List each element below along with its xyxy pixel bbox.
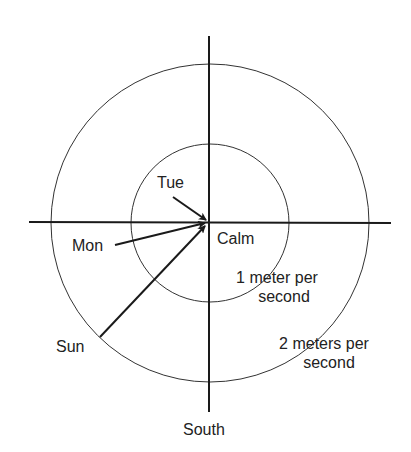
label-sun: Sun: [56, 337, 84, 356]
label-1ms-line1: 1 meter per: [222, 268, 332, 287]
label-2ms: 2 meters per second: [265, 334, 383, 372]
label-1ms-line2: second: [222, 287, 332, 306]
label-2ms-line2: second: [265, 353, 383, 372]
horizontal-axis: [29, 222, 391, 223]
label-tue: Tue: [157, 173, 184, 192]
label-south: South: [183, 420, 225, 439]
wind-diagram: [0, 0, 411, 452]
label-2ms-line1: 2 meters per: [265, 334, 383, 353]
label-1ms: 1 meter per second: [222, 268, 332, 306]
label-calm: Calm: [217, 229, 254, 248]
arrow-sun: [100, 226, 205, 337]
label-mon: Mon: [72, 236, 103, 255]
arrow-tue: [173, 197, 206, 220]
